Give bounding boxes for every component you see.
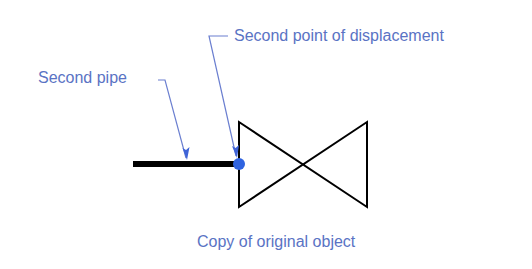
diagram-canvas: Second point of displacement Second pipe… xyxy=(0,0,532,269)
second-pipe-arrow-icon xyxy=(183,147,190,160)
second-pipe-leader xyxy=(158,80,186,158)
second-point-leader xyxy=(209,36,236,156)
copy-of-original-object-label: Copy of original object xyxy=(197,234,355,250)
valve-symbol xyxy=(239,122,367,207)
second-pipe-label: Second pipe xyxy=(38,70,127,86)
displacement-point-icon xyxy=(233,158,245,170)
second-point-of-displacement-label: Second point of displacement xyxy=(234,28,444,44)
